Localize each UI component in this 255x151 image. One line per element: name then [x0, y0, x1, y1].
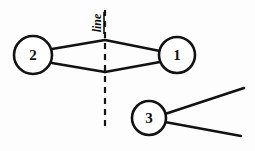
- node-2[interactable]: 2: [14, 36, 52, 74]
- ray-lower-right: [105, 62, 160, 72]
- ray-lower-left: [52, 63, 105, 72]
- reference-line-label-group: line: [90, 12, 104, 34]
- diagram-svg: line 1 2 3: [0, 0, 255, 151]
- diagram-canvas: line 1 2 3: [0, 0, 255, 151]
- ray-upper-left: [52, 40, 105, 49]
- node-3[interactable]: 3: [132, 101, 166, 135]
- node-3-label: 3: [145, 110, 153, 126]
- node-1-label: 1: [173, 47, 181, 63]
- ray-node3-upper: [165, 88, 244, 114]
- node-1[interactable]: 1: [159, 37, 195, 73]
- node-2-label: 2: [29, 47, 37, 63]
- reference-line-label: line: [90, 13, 104, 32]
- ray-upper-right: [105, 40, 160, 51]
- ray-node3-lower: [165, 122, 241, 136]
